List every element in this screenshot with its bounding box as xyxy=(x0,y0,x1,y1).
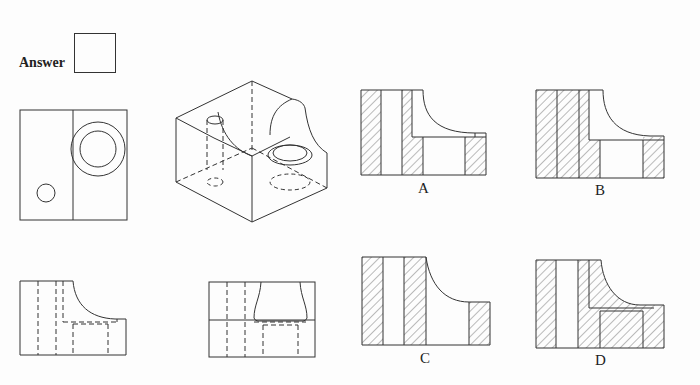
isometric-view xyxy=(176,81,327,222)
option-a-section[interactable] xyxy=(361,90,486,175)
option-a-label[interactable]: A xyxy=(418,180,429,197)
option-c-label[interactable]: C xyxy=(420,350,430,367)
option-d-section[interactable] xyxy=(536,260,664,348)
front-view xyxy=(20,281,126,355)
option-d-label[interactable]: D xyxy=(595,352,606,369)
option-c-section[interactable] xyxy=(362,257,490,345)
side-view xyxy=(209,282,315,357)
top-view xyxy=(20,110,127,220)
option-b-section[interactable] xyxy=(536,90,664,178)
option-b-label[interactable]: B xyxy=(595,182,605,199)
